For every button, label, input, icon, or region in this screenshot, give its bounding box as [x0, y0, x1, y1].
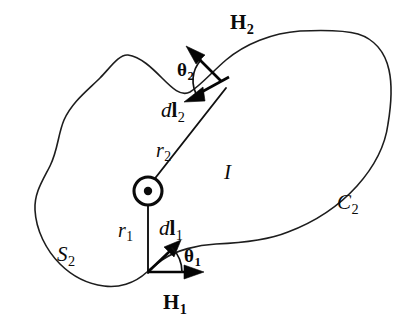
- label-r2: r2: [156, 140, 171, 160]
- label-H2: H2: [230, 12, 254, 33]
- current-out-of-page-dot-icon: [144, 187, 152, 195]
- label-I: I: [224, 162, 231, 183]
- label-theta2: θ2: [177, 60, 194, 79]
- physics-diagram: H2 θ2 dl2 r2 I C2 r1 dl1 θ1 S2 H1: [0, 0, 413, 335]
- dl1-vector: [148, 240, 181, 272]
- label-r1: r1: [118, 220, 133, 240]
- label-S2: S2: [57, 244, 75, 265]
- label-theta1: θ1: [184, 246, 201, 265]
- label-dl2: dl2: [161, 100, 185, 121]
- label-H1: H1: [163, 292, 187, 313]
- label-C2: C2: [337, 192, 359, 213]
- diagram-canvas: [0, 0, 413, 335]
- boundary-contour-c2: [35, 30, 391, 286]
- label-dl1: dl1: [159, 218, 183, 239]
